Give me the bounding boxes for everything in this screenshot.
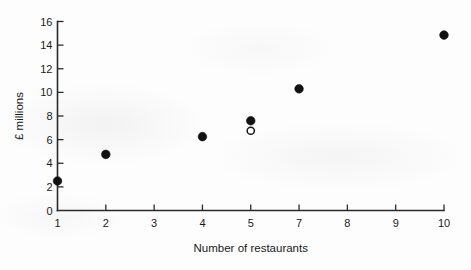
y-axis-tick-label: 14	[40, 39, 52, 51]
x-axis-tick-label: 4	[199, 217, 205, 229]
y-axis-tick-label: 6	[46, 134, 52, 146]
y-axis-tick-label: 4	[46, 157, 52, 169]
data-point	[53, 177, 62, 186]
x-axis-tick-label: 1	[54, 217, 60, 229]
data-point	[102, 150, 111, 159]
scatter-plot-figure: 02468101214161234578910Number of restaur…	[0, 0, 471, 270]
y-axis-tick-label: 2	[46, 181, 52, 193]
x-axis-tick-label: 5	[248, 217, 254, 229]
y-axis-tick-label: 0	[46, 205, 52, 217]
data-point-open	[247, 127, 254, 134]
x-axis-tick-label: 10	[438, 217, 450, 229]
data-point	[198, 132, 207, 141]
y-axis-tick-label: 12	[40, 63, 52, 75]
y-axis-tick-label: 10	[40, 86, 52, 98]
x-axis-tick-label: 2	[103, 217, 109, 229]
x-axis-tick-label: 9	[393, 217, 399, 229]
data-point	[246, 116, 255, 125]
x-axis-tick-label: 7	[296, 217, 302, 229]
data-point	[295, 85, 304, 94]
x-axis-tick-label: 8	[344, 217, 350, 229]
y-axis-tick-label: 16	[40, 16, 52, 28]
plot-canvas: 02468101214161234578910Number of restaur…	[0, 0, 471, 270]
x-axis-tick-label: 3	[151, 217, 157, 229]
y-axis-tick-label: 8	[46, 110, 52, 122]
x-axis-title: Number of restaurants	[194, 242, 309, 254]
y-axis-title: £ millions	[13, 92, 25, 140]
data-point	[440, 31, 449, 40]
